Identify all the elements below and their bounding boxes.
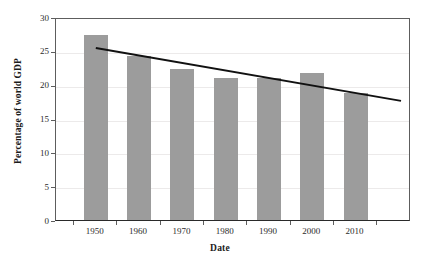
- y-axis-tick-label: 5: [21, 183, 49, 192]
- x-axis-tick-label: 2000: [289, 226, 333, 236]
- bar: [170, 69, 194, 220]
- x-axis-tick-mark: [73, 221, 74, 225]
- x-axis-tick-label: 1990: [246, 226, 290, 236]
- bar: [214, 78, 238, 220]
- bar: [300, 73, 324, 221]
- plot-area: [55, 18, 410, 221]
- bar: [257, 78, 281, 220]
- y-axis-tick-label: 20: [21, 81, 49, 90]
- x-axis-tick-label: 1970: [159, 226, 203, 236]
- y-axis-tick-label: 15: [21, 115, 49, 124]
- y-axis-tick-label: 30: [21, 14, 49, 23]
- x-axis-tick-label: 2010: [333, 226, 377, 236]
- y-axis-tick-label: 10: [21, 149, 49, 158]
- x-axis-tick-mark: [376, 221, 377, 225]
- x-axis-tick-label: 1980: [203, 226, 247, 236]
- x-axis-tick-mark: [246, 221, 247, 225]
- x-axis-tick-mark: [290, 221, 291, 225]
- x-axis-tick-mark: [203, 221, 204, 225]
- bar-chart: Percentage of world GDP 302520151050 195…: [0, 0, 438, 265]
- x-axis-tick-mark: [333, 221, 334, 225]
- y-axis-tick-label: 0: [21, 217, 49, 226]
- x-axis-tick-label: 1950: [73, 226, 117, 236]
- y-axis-tick-label: 25: [21, 47, 49, 56]
- bar: [84, 35, 108, 220]
- x-axis-tick-mark: [160, 221, 161, 225]
- gridline: [56, 53, 409, 54]
- x-axis-tick-label: 1960: [116, 226, 160, 236]
- y-axis-tick-mark: [51, 221, 55, 222]
- bar: [344, 93, 368, 220]
- bar: [127, 56, 151, 220]
- x-axis-title: Date: [145, 243, 295, 253]
- x-axis-tick-mark: [116, 221, 117, 225]
